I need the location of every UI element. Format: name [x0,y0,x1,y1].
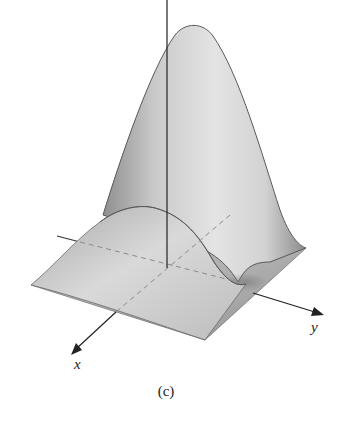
x-axis [76,312,116,349]
figure-caption: (c) [158,383,175,400]
x-axis-label: x [73,356,81,372]
y-axis-arrowhead-icon [311,307,324,316]
surface-plot-figure: x y (c) [0,0,353,430]
y-axis [253,293,318,313]
x-axis-back-segment [57,236,80,242]
y-axis-label: y [309,319,318,335]
